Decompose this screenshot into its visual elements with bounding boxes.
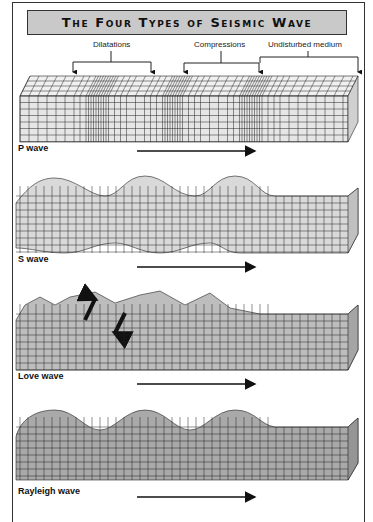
rayleigh-wave-block [16, 410, 358, 480]
annotation-brackets [73, 51, 358, 72]
s-wave-block [16, 176, 358, 253]
p-wave-label: P wave [18, 143, 48, 153]
love-wave-block [16, 291, 358, 370]
love-wave-label: Love wave [18, 371, 64, 381]
s-wave-label: S wave [18, 254, 49, 264]
rayleigh-wave-label: Rayleigh wave [18, 486, 80, 496]
